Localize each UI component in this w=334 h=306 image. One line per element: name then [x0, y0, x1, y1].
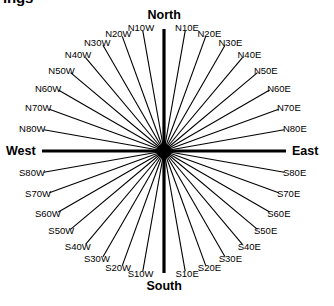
bearing-label-s20e: S20E	[198, 263, 221, 273]
bearing-label-s10e: S10E	[176, 269, 199, 279]
cardinal-label-north: North	[148, 9, 181, 22]
bearing-label-n30e: N30E	[219, 38, 243, 48]
bearing-label-s10w: S10W	[128, 269, 154, 279]
bearing-label-s40e: S40E	[238, 242, 261, 252]
bearing-label-s50e: S50E	[254, 226, 277, 236]
bearing-label-n40w: N40W	[65, 50, 91, 60]
compass-rose-figure: ings N10WN20WN30WN40WN50WN60WN70WN80WN10…	[0, 0, 334, 306]
bearing-label-n60w: N60W	[35, 84, 61, 94]
bearing-label-n60e: N60E	[267, 84, 291, 94]
bearing-label-n70w: N70W	[25, 103, 51, 113]
bearing-label-n40e: N40E	[237, 50, 261, 60]
bearing-label-s30w: S30W	[84, 254, 110, 264]
bearing-label-n50e: N50E	[254, 66, 278, 76]
bearing-label-s60w: S60W	[35, 209, 61, 219]
bearing-label-n50w: N50W	[48, 66, 74, 76]
bearing-label-s70w: S70W	[25, 189, 51, 199]
bearing-label-n10e: N10E	[175, 23, 199, 33]
bearing-label-s60e: S60E	[267, 209, 290, 219]
bearing-label-s20w: S20W	[105, 263, 131, 273]
bearing-label-s70e: S70E	[277, 189, 300, 199]
bearing-label-s40w: S40W	[65, 242, 91, 252]
bearing-label-s50w: S50W	[48, 226, 74, 236]
bearing-label-n80w: N80W	[19, 124, 45, 134]
compass-rays	[0, 0, 334, 306]
cardinal-label-west: West	[6, 145, 36, 158]
bearing-label-s80e: S80E	[283, 168, 306, 178]
compass-center-hub	[157, 144, 171, 158]
bearing-label-s30e: S30E	[219, 254, 242, 264]
bearing-label-n30w: N30W	[84, 38, 110, 48]
bearing-label-s80w: S80W	[19, 168, 45, 178]
bearing-label-n80e: N80E	[283, 124, 307, 134]
bearing-label-n70e: N70E	[277, 103, 301, 113]
cardinal-label-east: East	[292, 145, 318, 158]
cardinal-label-south: South	[147, 280, 182, 293]
